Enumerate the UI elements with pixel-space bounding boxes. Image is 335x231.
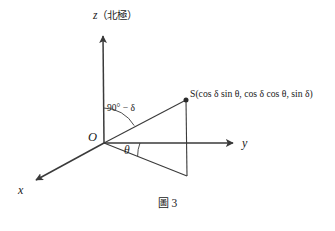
z-axis-annotation: （北極）: [97, 9, 137, 21]
figure-caption-label: 圖: [158, 197, 169, 210]
point-s-label: S(cos δ sin θ, cos δ cos θ, sin δ): [190, 89, 313, 99]
y-axis-label: y: [242, 137, 247, 149]
s-vertical-line: [186, 100, 187, 176]
figure-caption-number: 3: [169, 197, 178, 209]
z-axis-label: z（北極）: [93, 10, 137, 22]
azimuth-angle-arc: [138, 143, 140, 156]
z-axis-line: [103, 36, 104, 143]
origin-label: O: [88, 131, 97, 144]
point-s-marker: [184, 98, 189, 103]
azimuth-angle-label: θ: [124, 145, 130, 157]
x-axis-line: [36, 143, 104, 180]
figure-3-container: z（北極） y x O θ 90° − δ S(cos δ sin θ, cos…: [0, 0, 335, 231]
colatitude-angle-label: 90° − δ: [107, 104, 135, 114]
origin-to-projection-line: [104, 143, 187, 176]
x-axis-label: x: [18, 184, 23, 196]
figure-caption: 圖 3: [0, 198, 335, 210]
